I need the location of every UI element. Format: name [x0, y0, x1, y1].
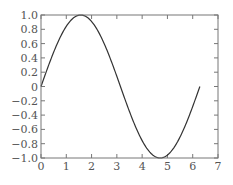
- x-tick-label: 3: [113, 160, 120, 173]
- y-tick-label: −0.8: [11, 138, 38, 151]
- x-tick-label: 0: [38, 160, 45, 173]
- y-tick-label: 0.2: [21, 66, 39, 79]
- x-tick-label: 1: [63, 160, 70, 173]
- y-tick-label: 0.4: [21, 52, 39, 65]
- y-tick-label: 1.0: [21, 9, 39, 22]
- y-tick-label: 0: [31, 81, 38, 94]
- y-tick-label: −0.4: [11, 109, 38, 122]
- x-tick-label: 4: [139, 160, 146, 173]
- sine-chart: 01234567 1.00.80.60.40.20−0.2−0.4−0.6−0.…: [0, 0, 233, 185]
- x-tick-label: 7: [215, 160, 222, 173]
- y-tick-label: 0.6: [21, 38, 39, 51]
- y-axis-ticks: 1.00.80.60.40.20−0.2−0.4−0.6−0.8−1.0: [11, 9, 218, 165]
- x-axis-ticks: 01234567: [38, 15, 222, 173]
- x-tick-label: 6: [189, 160, 196, 173]
- y-tick-label: 0.8: [21, 23, 39, 36]
- x-tick-label: 2: [88, 160, 95, 173]
- x-tick-label: 5: [164, 160, 171, 173]
- sine-curve: [41, 15, 200, 158]
- y-tick-label: −0.6: [11, 123, 38, 136]
- y-tick-label: −1.0: [11, 152, 38, 165]
- plot-frame: [41, 15, 218, 158]
- y-tick-label: −0.2: [11, 95, 38, 108]
